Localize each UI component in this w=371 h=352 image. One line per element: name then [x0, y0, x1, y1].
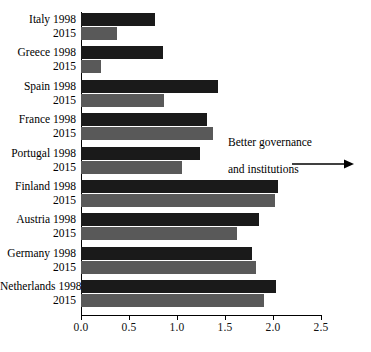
bar-row-1998 — [81, 213, 321, 226]
bar-group-netherlands — [0, 279, 371, 312]
x-tick-label-5: 2.5 — [314, 321, 329, 333]
bar-row-1998 — [81, 46, 321, 59]
x-tick-label-2: 1.0 — [170, 321, 185, 333]
bar-italy-1998 — [81, 13, 155, 26]
x-tick-0 — [81, 315, 82, 320]
bar-chart: 0.00.51.01.52.02.5 Italy 19982015Greece … — [0, 0, 371, 352]
bar-greece-1998 — [81, 46, 163, 59]
bar-finland-1998 — [81, 180, 278, 193]
bar-france-1998 — [81, 113, 207, 126]
bar-austria-2015 — [81, 227, 237, 240]
x-axis-line — [81, 315, 321, 316]
bar-row-1998 — [81, 113, 321, 126]
x-tick-1 — [129, 315, 130, 320]
x-tick-5 — [321, 315, 322, 320]
bar-group-spain — [0, 79, 371, 112]
bar-group-austria — [0, 212, 371, 245]
bar-row-1998 — [81, 280, 321, 293]
bar-group-germany — [0, 246, 371, 279]
bar-greece-2015 — [81, 60, 101, 73]
x-tick-label-0: 0.0 — [74, 321, 89, 333]
bar-germany-1998 — [81, 247, 252, 260]
bar-portugal-2015 — [81, 161, 182, 174]
bar-group-greece — [0, 45, 371, 78]
annotation-line-1: Better governance — [228, 136, 312, 150]
bar-row-2015 — [81, 261, 321, 274]
bar-finland-2015 — [81, 194, 275, 207]
bar-austria-1998 — [81, 213, 259, 226]
bar-group-france — [0, 112, 371, 145]
bar-row-2015 — [81, 94, 321, 107]
right-arrow-icon — [292, 155, 354, 165]
bar-row-1998 — [81, 80, 321, 93]
bar-portugal-1998 — [81, 147, 200, 160]
bar-group-finland — [0, 179, 371, 212]
bar-spain-1998 — [81, 80, 218, 93]
bar-netherlands-2015 — [81, 294, 264, 307]
bar-row-2015 — [81, 194, 321, 207]
bar-row-1998 — [81, 13, 321, 26]
x-tick-label-4: 2.0 — [266, 321, 281, 333]
x-tick-3 — [225, 315, 226, 320]
bar-germany-2015 — [81, 261, 256, 274]
bar-france-2015 — [81, 127, 213, 140]
x-tick-2 — [177, 315, 178, 320]
x-tick-label-3: 1.5 — [218, 321, 233, 333]
x-tick-4 — [273, 315, 274, 320]
bar-row-2015 — [81, 294, 321, 307]
bar-spain-2015 — [81, 94, 164, 107]
bar-row-2015 — [81, 227, 321, 240]
bar-group-italy — [0, 12, 371, 45]
bar-row-1998 — [81, 180, 321, 193]
x-tick-label-1: 0.5 — [122, 321, 137, 333]
bar-row-2015 — [81, 27, 321, 40]
bar-row-2015 — [81, 60, 321, 73]
bar-italy-2015 — [81, 27, 117, 40]
bar-row-1998 — [81, 247, 321, 260]
bar-netherlands-1998 — [81, 280, 276, 293]
